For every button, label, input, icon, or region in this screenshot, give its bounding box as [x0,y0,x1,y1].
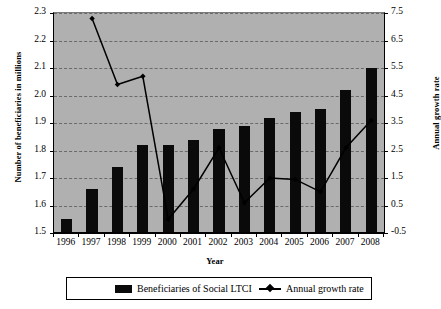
y-axis-left-tick-label: 2.0 [22,89,46,99]
y-axis-left-tick-label: 1.7 [22,171,46,181]
line-path [92,19,371,220]
y-axis-right-tick-label: 3.5 [391,116,417,126]
y-axis-left-tick-label: 1.9 [22,116,46,126]
tickmark [384,13,388,14]
line-series [54,13,384,233]
y-axis-right-tick-label: -0.5 [391,226,417,236]
tickmark [53,232,54,237]
tickmark [78,232,79,237]
y-axis-right-tick-label: 1.5 [391,171,417,181]
line-marker [89,16,94,21]
y-axis-right-title: Annual growth rate [431,48,441,178]
tickmark [384,41,388,42]
legend-item-bars: Beneficiaries of Social LTCI [115,278,252,299]
tickmark [384,123,388,124]
y-axis-left-tick-label: 2.1 [22,61,46,71]
tickmark [231,232,232,237]
legend-label-bars: Beneficiaries of Social LTCI [137,283,252,294]
tickmark [129,232,130,237]
line-marker [292,177,297,182]
y-axis-right-tick-label: 7.5 [391,6,417,16]
legend-line-diamond-icon [259,284,281,294]
y-axis-left-tick-label: 1.6 [22,199,46,209]
y-axis-right-tick-label: 4.5 [391,89,417,99]
line-marker [140,74,145,79]
tickmark [332,232,333,237]
x-axis-line [53,232,384,234]
legend-label-line: Annual growth rate [286,283,364,294]
tickmark [384,68,388,69]
legend: Beneficiaries of Social LTCI Annual grow… [66,277,372,300]
y-axis-left-tick-label: 1.5 [22,226,46,236]
tickmark [383,232,384,237]
tickmark [205,232,206,237]
plot-area [53,12,385,233]
tickmark [384,178,388,179]
x-axis-title: Year [150,256,280,266]
tickmark [256,232,257,237]
y-axis-right-tick-label: 6.5 [391,34,417,44]
legend-item-line: Annual growth rate [259,278,364,299]
tickmark [104,232,105,237]
line-marker [115,82,120,87]
tickmark [384,96,388,97]
tickmark [358,232,359,237]
y-axis-right-tick-label: 0.5 [391,199,417,209]
tickmark [180,232,181,237]
y-axis-left-tick-label: 1.8 [22,144,46,154]
tickmark [384,151,388,152]
y-axis-right-tick-label: 2.5 [391,144,417,154]
tickmark [307,232,308,237]
y-axis-right-tick-label: 5.5 [391,61,417,71]
y-axis-left-tick-label: 2.2 [22,34,46,44]
tickmark [155,232,156,237]
y-axis-left-tick-label: 2.3 [22,6,46,16]
tickmark [281,232,282,237]
x-axis-tick-label: 2008 [353,237,387,247]
tickmark [384,233,388,234]
tickmark [384,206,388,207]
legend-bar-swatch-icon [115,285,132,293]
